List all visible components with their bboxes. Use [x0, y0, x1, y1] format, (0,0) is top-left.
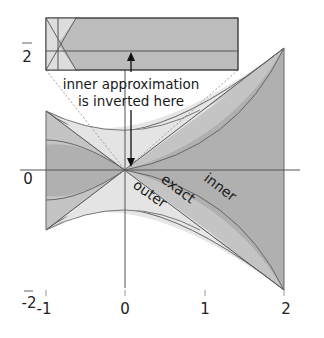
x-tick-label--1: -1: [37, 300, 52, 318]
y-tick-label-0: 0: [23, 170, 33, 188]
y-tick-label-2: 2: [22, 48, 32, 66]
x-tick-label-0: 0: [120, 300, 130, 318]
x-tick-label-2: 2: [281, 300, 291, 318]
zoom-inset: [46, 18, 238, 70]
annotation-line-1: inner approximation: [63, 76, 200, 92]
x-tick-label-1: 1: [200, 300, 210, 318]
y-tick-label--2: -2: [22, 294, 37, 312]
annotation-line-2: is inverted here: [78, 93, 184, 109]
approximation-diagram: inner approximation is inverted here out…: [0, 0, 324, 338]
